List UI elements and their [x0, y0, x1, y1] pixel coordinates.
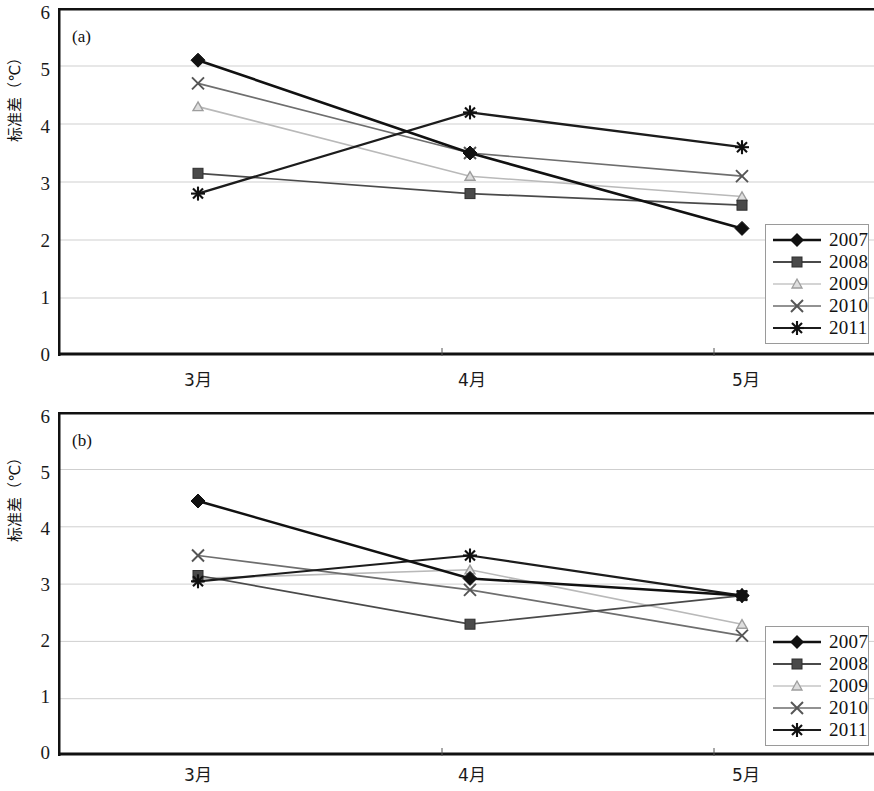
chart-panel-a: 标准差（℃） 6 5 4 3 2 1 0 (a) 3月 4月 5月 [0, 0, 874, 400]
x-tick-b-march: 3月 [163, 766, 233, 784]
asterisk-marker-icon [771, 720, 823, 740]
y-tick-b-2: 2 [22, 631, 50, 650]
y-tick-b-1: 1 [22, 687, 50, 706]
legend-row-2010[interactable]: 2010 [771, 697, 862, 719]
legend-label-2011: 2011 [823, 318, 868, 338]
legend-row-2007[interactable]: 2007 [771, 229, 862, 251]
legend-label-2009: 2009 [823, 676, 868, 696]
gridlines-b [58, 470, 874, 699]
triangle-marker-icon [771, 274, 823, 294]
plot-area-b [58, 412, 874, 756]
x-tick-a-april: 4月 [437, 371, 507, 389]
y-tick-a-0: 0 [22, 345, 50, 364]
diamond-marker-icon [771, 230, 823, 250]
legend-row-2009[interactable]: 2009 [771, 273, 862, 295]
plot-svg-a [58, 8, 874, 356]
series-a-2007 [191, 53, 749, 235]
y-tick-b-6: 6 [22, 407, 50, 426]
y-tick-b-0: 0 [22, 743, 50, 762]
asterisk-marker-icon [771, 318, 823, 338]
legend-row-2010[interactable]: 2010 [771, 295, 862, 317]
legend-label-2008: 2008 [823, 252, 868, 272]
plot-area-a [58, 8, 874, 356]
square-marker-icon [771, 252, 823, 272]
diamond-marker-icon [771, 632, 823, 652]
y-tick-b-3: 3 [22, 575, 50, 594]
figure-root: 标准差（℃） 6 5 4 3 2 1 0 (a) 3月 4月 5月 [0, 0, 874, 791]
legend-label-2008: 2008 [823, 654, 868, 674]
legend-row-2011[interactable]: 2011 [771, 719, 862, 741]
y-tick-a-5: 5 [22, 60, 50, 79]
legend-label-2010: 2010 [823, 698, 868, 718]
legend-row-2008[interactable]: 2008 [771, 251, 862, 273]
y-tick-a-1: 1 [22, 288, 50, 307]
series-b-2007 [191, 494, 749, 603]
gridlines-a [58, 66, 874, 298]
triangle-marker-icon [771, 676, 823, 696]
chart-panel-b: 标准差（℃） 6 5 4 3 2 1 0 (b) 3月 4月 5月 [0, 400, 874, 791]
legend-label-2007: 2007 [823, 230, 868, 250]
plot-svg-b [58, 412, 874, 756]
legend-row-2007[interactable]: 2007 [771, 631, 862, 653]
legend-row-2011[interactable]: 2011 [771, 317, 862, 339]
legend-a: 2007 2008 2009 2010 [765, 224, 869, 344]
y-tick-b-5: 5 [22, 463, 50, 482]
y-tick-a-4: 4 [22, 117, 50, 136]
y-tick-b-4: 4 [22, 519, 50, 538]
y-tick-a-2: 2 [22, 231, 50, 250]
legend-label-2007: 2007 [823, 632, 868, 652]
x-tick-a-march: 3月 [163, 371, 233, 389]
y-tick-a-6: 6 [22, 3, 50, 22]
cross-marker-icon [771, 698, 823, 718]
cross-marker-icon [771, 296, 823, 316]
legend-label-2010: 2010 [823, 296, 868, 316]
legend-row-2009[interactable]: 2009 [771, 675, 862, 697]
y-tick-a-3: 3 [22, 174, 50, 193]
legend-label-2009: 2009 [823, 274, 868, 294]
legend-b: 2007 2008 2009 2010 [765, 626, 869, 746]
x-tick-a-may: 5月 [711, 371, 781, 389]
legend-row-2008[interactable]: 2008 [771, 653, 862, 675]
x-tick-b-may: 5月 [711, 766, 781, 784]
series-a-2010 [192, 77, 748, 182]
x-tick-b-april: 4月 [437, 766, 507, 784]
square-marker-icon [771, 654, 823, 674]
legend-label-2011: 2011 [823, 720, 868, 740]
